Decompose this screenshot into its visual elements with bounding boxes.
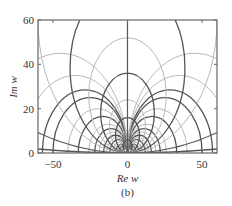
- y-tick-60: 60: [23, 14, 35, 26]
- x-tick-50: 50: [197, 158, 209, 170]
- contour-figure: 60 40 20 0 −50 0 50 Re w Im w (b): [0, 0, 231, 206]
- x-tick-neg50: −50: [44, 158, 62, 170]
- x-tick-0: 0: [125, 158, 131, 170]
- x-axis-label: Re w: [116, 172, 139, 184]
- y-tick-0: 0: [29, 147, 35, 159]
- y-tick-40: 40: [23, 58, 35, 70]
- contour-lines: [0, 0, 231, 206]
- contour-line: [0, 53, 128, 206]
- panel-label: (b): [121, 186, 134, 199]
- y-axis-label: Im w: [7, 75, 19, 98]
- y-tick-20: 20: [23, 103, 35, 115]
- contour-line: [128, 53, 232, 206]
